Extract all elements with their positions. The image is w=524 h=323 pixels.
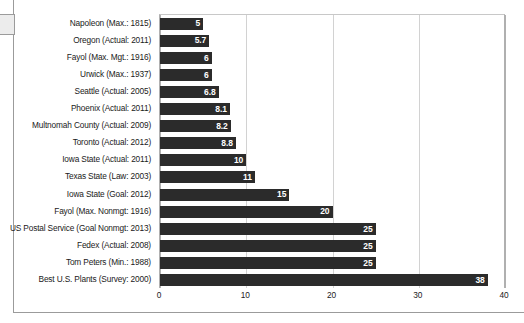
bar-row: 15 bbox=[160, 186, 504, 203]
bar: 8.2 bbox=[160, 120, 231, 132]
bar-row: 8.1 bbox=[160, 101, 504, 118]
bar: 25 bbox=[160, 257, 376, 269]
bar-row: 11 bbox=[160, 169, 504, 186]
bar-value-label: 38 bbox=[475, 276, 484, 285]
category-label: Phoenix (Actual: 2011) bbox=[71, 100, 151, 117]
x-tick-label-30: 30 bbox=[413, 290, 422, 300]
bar-row: 8.8 bbox=[160, 135, 504, 152]
bar-value-label: 6 bbox=[204, 71, 209, 80]
bar-value-label: 11 bbox=[243, 173, 252, 182]
bar-value-label: 8.8 bbox=[221, 139, 233, 148]
bar: 6 bbox=[160, 69, 212, 81]
bar: 10 bbox=[160, 154, 246, 166]
bar: 6.8 bbox=[160, 86, 219, 98]
bar-value-label: 5.7 bbox=[195, 36, 207, 45]
bar-value-label: 25 bbox=[363, 259, 372, 268]
gridline-40 bbox=[505, 15, 506, 288]
bar: 25 bbox=[160, 223, 376, 235]
category-label: Seattle (Actual: 2005) bbox=[75, 82, 152, 99]
x-tick-label-0: 0 bbox=[157, 290, 162, 300]
bar: 25 bbox=[160, 240, 376, 252]
bar: 5 bbox=[160, 18, 203, 30]
category-label: Toronto (Actual: 2012) bbox=[73, 134, 151, 151]
horizontal-bar-chart: 55.7666.88.18.28.81011152025252538 Napol… bbox=[0, 0, 524, 323]
category-label: Multnomah County (Actual: 2009) bbox=[32, 117, 151, 134]
category-label: Best U.S. Plants (Survey: 2000) bbox=[39, 271, 151, 288]
category-axis-labels: Napoleon (Max.: 1815)Oregon (Actual: 201… bbox=[0, 14, 155, 288]
category-label: Tom Peters (Min.: 1988) bbox=[66, 253, 151, 270]
bar-row: 5 bbox=[160, 15, 504, 32]
bar-row: 38 bbox=[160, 272, 504, 289]
category-label: Texas State (Law: 2003) bbox=[65, 168, 151, 185]
bar: 20 bbox=[160, 206, 333, 218]
bar-row: 8.2 bbox=[160, 118, 504, 135]
bar-value-label: 25 bbox=[363, 242, 372, 251]
bar-value-label: 25 bbox=[363, 225, 372, 234]
category-label: Urwick (Max.: 1937) bbox=[80, 65, 151, 82]
bar-rows: 55.7666.88.18.28.81011152025252538 bbox=[160, 15, 504, 288]
bar: 38 bbox=[160, 274, 488, 286]
bar-value-label: 8.1 bbox=[215, 105, 227, 114]
category-label: Fayol (Max. Mgt.: 1916) bbox=[67, 48, 151, 65]
bar-value-label: 5 bbox=[195, 19, 200, 28]
bar-row: 10 bbox=[160, 152, 504, 169]
bar-row: 5.7 bbox=[160, 32, 504, 49]
bar-value-label: 6.8 bbox=[204, 88, 216, 97]
category-label: Fedex (Actual: 2008) bbox=[77, 236, 151, 253]
category-label: Iowa State (Actual: 2011) bbox=[62, 151, 151, 168]
x-tick-label-10: 10 bbox=[241, 290, 250, 300]
bar-row: 25 bbox=[160, 254, 504, 271]
category-label: Iowa State (Goal: 2012) bbox=[67, 185, 151, 202]
bar-row: 6 bbox=[160, 49, 504, 66]
bar: 8.8 bbox=[160, 137, 236, 149]
bar-value-label: 10 bbox=[234, 156, 243, 165]
bar: 6 bbox=[160, 52, 212, 64]
bar-row: 6.8 bbox=[160, 83, 504, 100]
bar-value-label: 15 bbox=[277, 190, 286, 199]
category-label: Fayol (Max. Nonmgt: 1916) bbox=[54, 202, 151, 219]
bar-value-label: 20 bbox=[320, 207, 329, 216]
plot-area: 55.7666.88.18.28.81011152025252538 bbox=[159, 14, 505, 288]
bar-row: 20 bbox=[160, 203, 504, 220]
bar-row: 25 bbox=[160, 220, 504, 237]
bar-value-label: 8.2 bbox=[216, 122, 228, 131]
x-tick-label-20: 20 bbox=[327, 290, 336, 300]
bar: 15 bbox=[160, 189, 289, 201]
bar-value-label: 6 bbox=[204, 54, 209, 63]
category-label: Oregon (Actual: 2011) bbox=[73, 31, 151, 48]
bar-row: 25 bbox=[160, 237, 504, 254]
bar-row: 6 bbox=[160, 66, 504, 83]
bar: 8.1 bbox=[160, 103, 230, 115]
x-axis-tick-labels: 010203040 bbox=[159, 290, 505, 304]
category-label: US Postal Service (Goal Nonmgt: 2013) bbox=[10, 219, 151, 236]
category-label: Napoleon (Max.: 1815) bbox=[70, 14, 151, 31]
bar: 11 bbox=[160, 171, 255, 183]
bar: 5.7 bbox=[160, 35, 209, 47]
x-tick-label-40: 40 bbox=[499, 290, 508, 300]
